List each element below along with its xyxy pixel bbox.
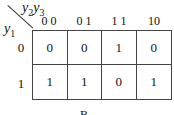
row-header: 0 — [14, 40, 28, 56]
column-header: 1 1 — [102, 14, 136, 29]
kmap-cell: 1 — [33, 65, 68, 99]
kmap-cell: 0 — [33, 31, 68, 65]
row-variable-label: y1 — [4, 21, 15, 39]
kmap-cell: 0 — [102, 65, 137, 99]
kmap-cell: 0 — [68, 31, 103, 65]
kmap-cell: 0 — [137, 31, 172, 65]
column-header: 0 1 — [67, 14, 101, 29]
kmap-cell: 1 — [137, 65, 172, 99]
column-header: 10 — [137, 14, 171, 29]
kmap-cell: 1 — [68, 65, 103, 99]
row-header: 1 — [14, 76, 28, 92]
karnaugh-map-grid: 0 0 1 0 1 1 0 1 — [32, 30, 172, 100]
kmap-cell: 1 — [102, 31, 137, 65]
figure-caption: B — [80, 108, 88, 115]
column-header: 0 0 — [32, 14, 66, 29]
